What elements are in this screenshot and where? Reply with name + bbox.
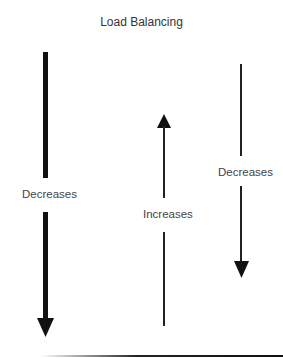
arrow-middle-up-icon	[157, 114, 171, 326]
arrows-canvas	[0, 0, 283, 358]
label-right: Decreases	[218, 166, 273, 178]
label-left: Decreases	[22, 188, 77, 200]
label-middle: Increases	[143, 208, 193, 220]
bottom-rule	[40, 355, 283, 357]
